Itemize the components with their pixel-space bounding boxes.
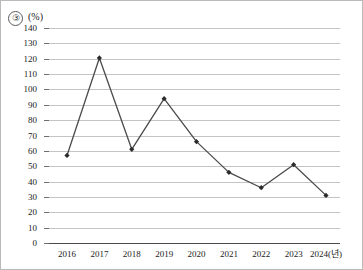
x-axis-tick-label: 2022 (252, 250, 270, 259)
y-axis-tick-label: 60 (0, 146, 37, 155)
x-axis-tick-label: 2018 (123, 250, 141, 259)
x-axis-tick-label: 2016 (58, 250, 76, 259)
line-series (49, 28, 344, 243)
y-axis-tick-label: 40 (0, 177, 37, 186)
x-axis-tick-label: 2021 (220, 250, 238, 259)
data-point-marker (97, 55, 102, 60)
y-axis-tick-label: 80 (0, 116, 37, 125)
chart-figure: ③ (%) 0102030405060708090100110120130140… (0, 0, 363, 270)
y-axis-tick-label: 100 (0, 85, 37, 94)
y-axis-tick-label: 120 (0, 54, 37, 63)
y-axis-tick-label: 90 (0, 100, 37, 109)
y-axis-tick (44, 243, 49, 244)
y-axis-tick-label: 20 (0, 208, 37, 217)
y-axis-tick-label: 0 (0, 239, 37, 248)
y-axis-tick-label: 10 (0, 223, 37, 232)
y-axis-tick-label: 110 (0, 70, 37, 79)
y-axis-tick-label: 130 (0, 39, 37, 48)
data-point-marker (64, 153, 69, 158)
x-axis-tick-label: 2024(년) (310, 250, 342, 259)
gridline (49, 243, 340, 244)
x-axis-tick-label: 2019 (155, 250, 173, 259)
x-axis-tick-label: 2017 (90, 250, 108, 259)
series-line (67, 58, 326, 195)
y-axis-tick-label: 70 (0, 131, 37, 140)
y-axis-unit-label: (%) (28, 10, 43, 23)
plot-area: 0102030405060708090100110120130140 20162… (49, 28, 344, 243)
x-axis-tick-label: 2023 (285, 250, 303, 259)
y-axis-tick-label: 140 (0, 24, 37, 33)
x-axis-tick-label: 2020 (188, 250, 206, 259)
y-axis-tick-label: 30 (0, 192, 37, 201)
y-axis-tick-label: 50 (0, 162, 37, 171)
